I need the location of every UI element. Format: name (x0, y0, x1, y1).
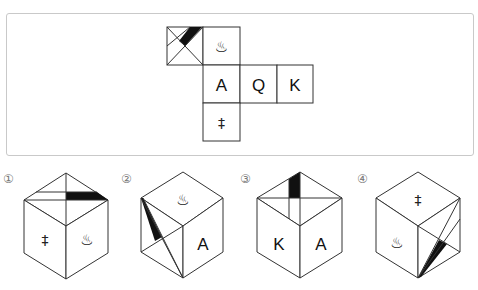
double-cross-icon: ‡ (415, 192, 422, 208)
hot-spring-icon: ♨ (176, 191, 189, 209)
option-1[interactable]: ① ‡ ♨ (3, 172, 108, 279)
option-2[interactable]: ② ♨ A (121, 172, 223, 278)
double-cross-icon: ‡ (218, 115, 225, 131)
figure: ♨ A Q K ‡ ① ‡ ♨ ② (0, 0, 478, 290)
letter-a: A (197, 235, 209, 254)
cube-net: ♨ A Q K ‡ (167, 27, 313, 141)
letter-k: K (273, 235, 285, 254)
net-face-q: Q (240, 65, 277, 103)
letter-k: K (289, 76, 301, 95)
net-face-cross: ‡ (203, 103, 240, 141)
option-4[interactable]: ④ ‡ ♨ (357, 172, 460, 278)
hot-spring-icon: ♨ (390, 234, 403, 252)
option-3[interactable]: ③ K A (240, 172, 342, 278)
option-2-label: ② (121, 172, 132, 186)
net-face-k: K (277, 65, 313, 103)
letter-a: A (315, 235, 327, 254)
option-4-label: ④ (357, 172, 368, 186)
hot-spring-icon: ♨ (215, 38, 228, 56)
option-3-label: ③ (240, 172, 251, 186)
hot-spring-icon: ♨ (80, 231, 93, 249)
double-cross-icon: ‡ (42, 232, 49, 248)
net-face-a: A (203, 65, 240, 103)
net-face-stripe (167, 27, 203, 65)
net-face-hot-spring: ♨ (203, 27, 240, 65)
letter-q: Q (252, 76, 265, 95)
letter-a: A (216, 76, 228, 95)
option-1-label: ① (3, 172, 14, 186)
